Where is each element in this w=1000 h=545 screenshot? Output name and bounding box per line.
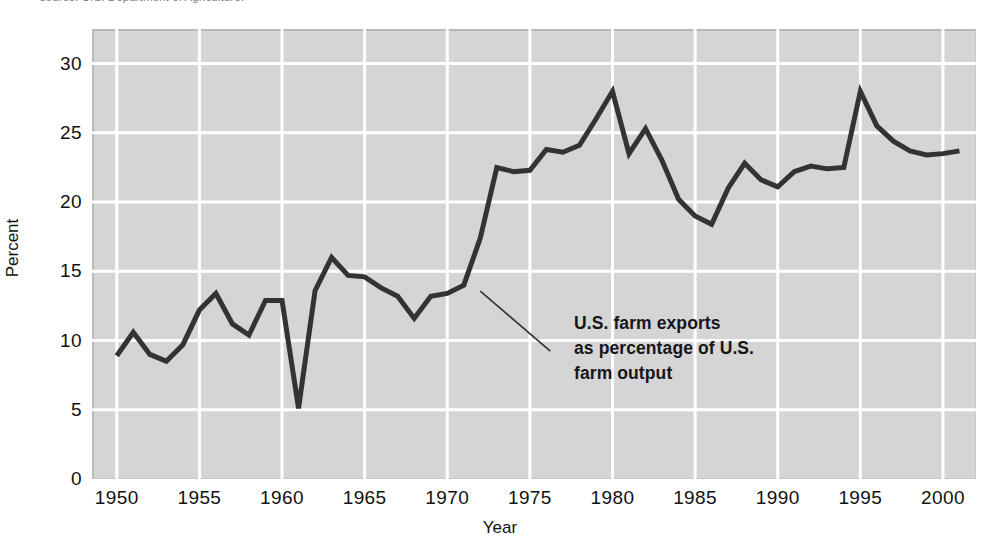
x-tick-label: 1970 — [425, 487, 469, 509]
x-tick-label: 1960 — [260, 487, 304, 509]
series-line — [117, 91, 960, 408]
y-tick-label: 0 — [8, 468, 82, 490]
annotation-line-2: as percentage of U.S. — [574, 338, 754, 358]
y-tick-label: 10 — [8, 330, 82, 352]
data-series-layer — [92, 29, 976, 479]
y-tick-label: 30 — [8, 53, 82, 75]
x-tick-label: 1990 — [756, 487, 800, 509]
x-tick-label: 1955 — [177, 487, 221, 509]
x-axis-title: Year — [0, 518, 1000, 538]
y-axis-title: Percent — [3, 219, 23, 278]
figure-container: source: U.S. Department of Agriculture. … — [0, 0, 1000, 545]
x-tick-label: 1995 — [838, 487, 882, 509]
x-axis-tick-labels: 1950195519601965197019751980198519901995… — [92, 487, 976, 513]
annotation-line-3: farm output — [574, 363, 672, 383]
annotation-leader-line — [480, 291, 550, 351]
x-tick-label: 2000 — [921, 487, 965, 509]
y-tick-label: 20 — [8, 191, 82, 213]
series-annotation: U.S. farm exports as percentage of U.S. … — [574, 311, 754, 386]
figure-caption-fragment: source: U.S. Department of Agriculture. — [40, 0, 440, 5]
x-tick-label: 1975 — [508, 487, 552, 509]
x-tick-label: 1950 — [95, 487, 139, 509]
y-tick-label: 5 — [8, 399, 82, 421]
x-tick-label: 1965 — [343, 487, 387, 509]
plot-area — [92, 29, 976, 479]
annotation-line-1: U.S. farm exports — [574, 313, 721, 333]
x-tick-label: 1980 — [591, 487, 635, 509]
y-tick-label: 25 — [8, 122, 82, 144]
x-tick-label: 1985 — [673, 487, 717, 509]
